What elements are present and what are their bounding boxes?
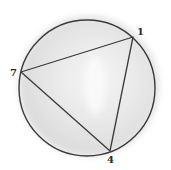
vertex-label-7: 7 <box>10 67 17 78</box>
diagram-canvas: 1 7 4 <box>0 0 171 170</box>
vertex-label-1: 1 <box>137 26 144 37</box>
vertex-label-4: 4 <box>107 154 114 165</box>
highlight <box>85 55 105 115</box>
